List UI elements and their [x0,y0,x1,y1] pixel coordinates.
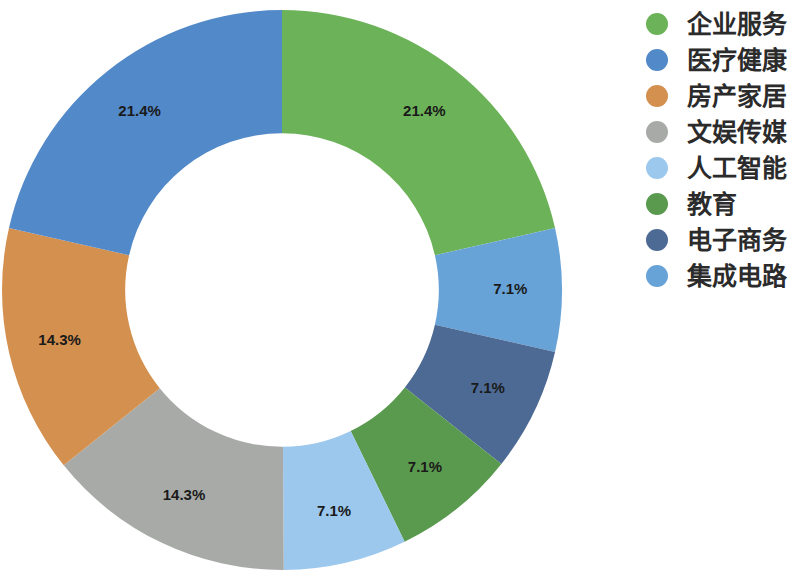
donut-slice-label: 7.1% [471,379,505,396]
donut-slices-group [2,10,562,570]
donut-chart-figure: 21.4%7.1%7.1%7.1%7.1%14.3%14.3%21.4% 企业服… [0,0,796,583]
legend-item[interactable]: 文娱传媒 [646,114,796,150]
legend-item-label: 房产家居 [687,84,787,109]
donut-slice-label: 21.4% [403,102,446,119]
legend-item-label: 人工智能 [687,156,787,181]
chart-legend: 企业服务医疗健康房产家居文娱传媒人工智能教育电子商务集成电路 [646,6,796,294]
legend-item[interactable]: 房产家居 [646,78,796,114]
legend-color-swatch-icon [646,157,668,179]
legend-color-swatch-icon [646,265,668,287]
legend-item[interactable]: 集成电路 [646,258,796,294]
donut-slice-label: 7.1% [408,458,442,475]
legend-item[interactable]: 医疗健康 [646,42,796,78]
legend-color-swatch-icon [646,121,668,143]
legend-item-label: 文娱传媒 [687,120,787,145]
legend-color-swatch-icon [646,49,668,71]
legend-color-swatch-icon [646,229,668,251]
legend-item-label: 集成电路 [687,264,787,289]
donut-slice[interactable] [282,10,555,255]
legend-color-swatch-icon [646,85,668,107]
legend-item[interactable]: 企业服务 [646,6,796,42]
legend-item[interactable]: 人工智能 [646,150,796,186]
donut-chart-svg: 21.4%7.1%7.1%7.1%7.1%14.3%14.3%21.4% [0,0,600,583]
legend-color-swatch-icon [646,193,668,215]
donut-slice-label: 21.4% [118,102,161,119]
donut-slice-label: 7.1% [317,502,351,519]
legend-item-label: 教育 [687,192,737,217]
donut-slice[interactable] [9,10,282,255]
legend-item-label: 企业服务 [687,12,787,37]
legend-item[interactable]: 电子商务 [646,222,796,258]
legend-item-label: 电子商务 [687,228,787,253]
legend-item[interactable]: 教育 [646,186,796,222]
donut-chart-plot-area: 21.4%7.1%7.1%7.1%7.1%14.3%14.3%21.4% [0,0,600,583]
legend-color-swatch-icon [646,13,668,35]
donut-slice-label: 14.3% [38,331,81,348]
legend-item-label: 医疗健康 [687,48,787,73]
donut-slice-label: 14.3% [163,486,206,503]
donut-slice-label: 7.1% [493,280,527,297]
